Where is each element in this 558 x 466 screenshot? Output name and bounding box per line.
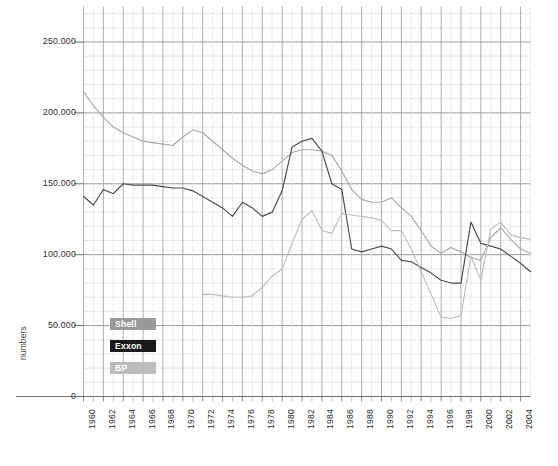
- legend-item-shell[interactable]: Shell: [110, 318, 156, 330]
- y-tick-label: 150.000: [20, 178, 76, 188]
- x-tick-label: 2004: [524, 409, 534, 429]
- series-line-shell: [84, 92, 531, 261]
- legend-item-exxon[interactable]: Exxon: [110, 340, 156, 352]
- x-tick-label: 1982: [306, 409, 316, 429]
- x-tick-label: 1978: [266, 409, 276, 429]
- x-tick-label: 1994: [425, 409, 435, 429]
- x-tick-label: 1996: [445, 409, 455, 429]
- series-line-bp: [203, 211, 531, 319]
- x-tick-label: 1980: [286, 409, 296, 429]
- x-tick-label: 1984: [325, 409, 335, 429]
- x-tick-label: 1988: [365, 409, 375, 429]
- x-tick-label: 2002: [504, 409, 514, 429]
- y-tick-label: 250.000: [20, 36, 76, 46]
- y-tick-label: 100.000: [20, 249, 76, 259]
- y-tick-label: 0: [20, 391, 76, 401]
- x-tick-label: 1972: [206, 409, 216, 429]
- x-tick-label: 1964: [127, 409, 137, 429]
- x-tick-label: 1992: [405, 409, 415, 429]
- x-tick-label: 1970: [186, 409, 196, 429]
- x-tick-label: 1974: [226, 409, 236, 429]
- x-tick-label: 2000: [484, 409, 494, 429]
- x-tick-label: 1986: [345, 409, 355, 429]
- x-tick-label: 1968: [166, 409, 176, 429]
- plot-area: [0, 0, 558, 466]
- series-line-exxon: [84, 138, 531, 283]
- x-tick-label: 1960: [87, 409, 97, 429]
- y-tick-label: 50.000: [20, 320, 76, 330]
- legend-item-bp[interactable]: BP: [110, 362, 156, 374]
- line-chart: numbers 050.000100.000150.000200.000250.…: [0, 0, 558, 466]
- x-tick-label: 1990: [385, 409, 395, 429]
- x-tick-label: 1998: [464, 409, 474, 429]
- x-tick-label: 1962: [107, 409, 117, 429]
- x-tick-label: 1976: [246, 409, 256, 429]
- x-tick-label: 1966: [147, 409, 157, 429]
- y-tick-label: 200.000: [20, 107, 76, 117]
